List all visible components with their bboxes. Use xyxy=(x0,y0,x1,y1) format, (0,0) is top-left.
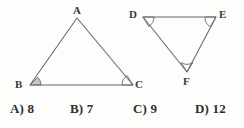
angle-marker-b xyxy=(30,77,41,85)
figure-svg xyxy=(0,0,244,98)
answer-choice-b[interactable]: B) 7 xyxy=(70,101,94,117)
triangle-abc-outline xyxy=(30,18,133,85)
answer-choices: A) 8 B) 7 C) 9 D) 12 xyxy=(0,98,244,128)
triangle-def-outline xyxy=(143,17,216,72)
question-figure-page: A B C D E F A) 8 B) 7 C) 9 D) 12 xyxy=(0,0,244,128)
vertex-label-a: A xyxy=(73,5,81,16)
triangle-def xyxy=(143,17,216,72)
geometry-figure: A B C D E F xyxy=(0,0,244,98)
vertex-label-b: B xyxy=(15,79,22,90)
answer-choice-d[interactable]: D) 12 xyxy=(195,101,226,117)
vertex-label-c: C xyxy=(135,79,143,90)
vertex-label-d: D xyxy=(129,9,137,20)
answer-choice-c[interactable]: C) 9 xyxy=(133,101,157,117)
vertex-label-e: E xyxy=(219,9,226,20)
triangle-abc xyxy=(30,18,133,85)
angle-marker-e xyxy=(205,17,216,27)
answer-choice-a[interactable]: A) 8 xyxy=(10,101,34,117)
vertex-label-f: F xyxy=(183,76,190,87)
